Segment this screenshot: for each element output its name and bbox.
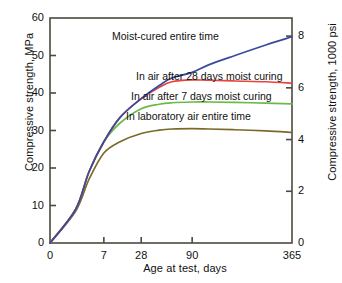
plot-area [0, 0, 342, 283]
x-tick-label-365: 365 [272, 249, 312, 261]
x-tick-label-28: 28 [121, 249, 161, 261]
y-tick-label-left-20: 20 [20, 161, 44, 173]
y-tick-label-right-0: 0 [298, 236, 322, 248]
compressive-strength-chart: Compressive strength, MPa Compressive st… [0, 0, 342, 283]
y-tick-label-left-10: 10 [20, 199, 44, 211]
curve-label-3: In air after 7 days moist curing [131, 90, 272, 102]
y-tick-label-left-40: 40 [20, 86, 44, 98]
x-tick-label-7: 7 [84, 249, 124, 261]
y-tick-label-right-6: 6 [298, 81, 322, 93]
curve-label-2: In air after 28 days moist curing [136, 70, 282, 82]
y-tick-label-right-4: 4 [298, 133, 322, 145]
y-tick-label-left-50: 50 [20, 49, 44, 61]
curve-label-1: Moist-cured entire time [112, 30, 219, 42]
y-tick-label-left-30: 30 [20, 124, 44, 136]
y-tick-label-left-0: 0 [20, 236, 44, 248]
y-tick-label-left-60: 60 [20, 11, 44, 23]
x-tick-label-90: 90 [172, 249, 212, 261]
y-tick-label-right-8: 8 [298, 29, 322, 41]
x-tick-label-0: 0 [30, 249, 70, 261]
curve-label-4: In laboratory air entire time [126, 110, 251, 122]
y-tick-label-right-2: 2 [298, 184, 322, 196]
